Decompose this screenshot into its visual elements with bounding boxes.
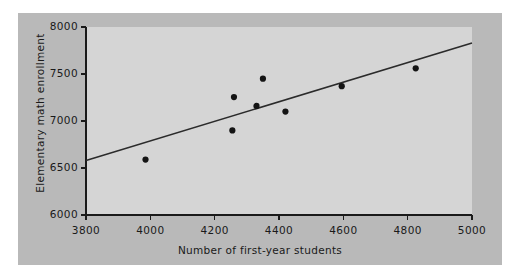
y-tick-label: 6000 — [24, 208, 78, 220]
data-series-group — [86, 43, 472, 163]
data-point — [229, 127, 235, 133]
data-point — [253, 103, 259, 109]
figure-background: 60006500700075008000 3800400042004400460… — [18, 13, 502, 265]
x-tick-label: 4400 — [249, 224, 309, 236]
x-axis-title: Number of first-year students — [18, 244, 502, 256]
data-point — [413, 65, 419, 71]
data-point — [142, 156, 148, 162]
data-point — [260, 76, 266, 82]
regression-line — [86, 43, 472, 161]
x-tick-label: 4600 — [313, 224, 373, 236]
data-point — [231, 94, 237, 100]
x-tick-label: 5000 — [442, 224, 502, 236]
data-point — [282, 109, 288, 115]
x-tick-label: 4200 — [185, 224, 245, 236]
y-tick-label: 7500 — [24, 67, 78, 79]
axes-group — [81, 27, 472, 221]
data-point — [339, 83, 345, 89]
x-tick-label: 4000 — [120, 224, 180, 236]
y-tick-label: 6500 — [24, 161, 78, 173]
x-tick-label: 3800 — [56, 224, 116, 236]
x-tick-label: 4800 — [378, 224, 438, 236]
y-axis-title: Elementary math enrollment — [34, 28, 46, 198]
y-tick-label: 7000 — [24, 114, 78, 126]
y-tick-label: 8000 — [24, 20, 78, 32]
